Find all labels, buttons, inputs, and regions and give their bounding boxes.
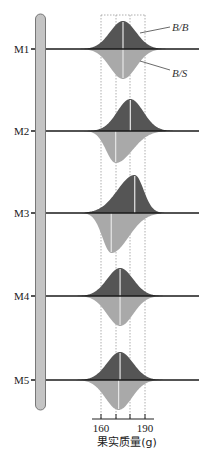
x-tick-label-160: 160 [93, 422, 110, 434]
bs-leader-line [140, 61, 170, 70]
marker-label: M4 [14, 290, 30, 302]
marker-label: M5 [14, 374, 30, 386]
x-axis-title: 果实质量(g) [97, 435, 157, 449]
x-tick-label-190: 190 [137, 422, 154, 434]
marker-label: M3 [14, 207, 30, 219]
marker-label: M2 [14, 125, 29, 137]
qtl-diagram: M1M2M3M4M5 B/B B/S 160 190 果实质量(g) [0, 0, 210, 459]
bb-leader-line [140, 27, 170, 33]
legend-bs-label: B/S [172, 67, 188, 79]
chromosome-bar [36, 14, 46, 410]
x-axis: 160 190 果实质量(g) [92, 414, 157, 449]
marker-label: M1 [14, 43, 29, 55]
legend-bb-label: B/B [172, 21, 189, 33]
